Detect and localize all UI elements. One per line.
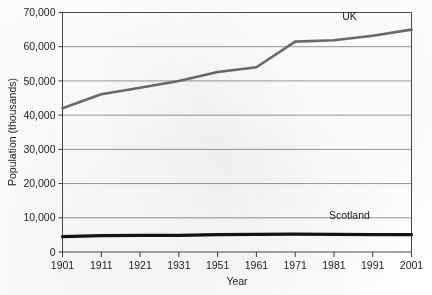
y-axis-tick-label: 70,000 [23, 6, 55, 18]
x-axis-tick-label: 1911 [90, 259, 113, 271]
x-axis-tick-label: 2001 [400, 259, 424, 271]
y-axis-tick-label: 40,000 [23, 109, 55, 121]
x-axis-tick-label: 1991 [361, 259, 385, 271]
chart-canvas: 010,00020,00030,00040,00050,00060,00070,… [0, 0, 432, 295]
x-axis-title: Year [226, 275, 248, 287]
x-axis-tick-label: 1961 [245, 259, 269, 271]
x-axis-tick-label: 1921 [128, 259, 152, 271]
x-axis-tick-label: 1901 [51, 259, 75, 271]
x-axis-tick-label: 1951 [206, 259, 230, 271]
x-axis-tick-label: 1971 [283, 259, 307, 271]
population-line-chart: 010,00020,00030,00040,00050,00060,00070,… [0, 0, 432, 295]
y-axis-tick-label: 60,000 [23, 40, 55, 52]
series-label-scotland: Scotland [329, 209, 370, 221]
y-axis-tick-label: 20,000 [23, 177, 55, 189]
chart-figure: 010,00020,00030,00040,00050,00060,00070,… [0, 0, 432, 295]
y-axis-tick-label: 50,000 [23, 75, 55, 87]
y-axis-tick-label: 10,000 [23, 211, 55, 223]
y-axis-tick-label: 30,000 [23, 143, 55, 155]
y-axis-title: Population (thousands) [6, 78, 18, 186]
chart-background [0, 0, 432, 295]
x-axis-tick-label: 1931 [167, 259, 191, 271]
x-axis-tick-label: 1981 [322, 259, 346, 271]
y-axis-tick-label: 0 [50, 246, 56, 258]
series-label-uk: UK [342, 10, 357, 22]
